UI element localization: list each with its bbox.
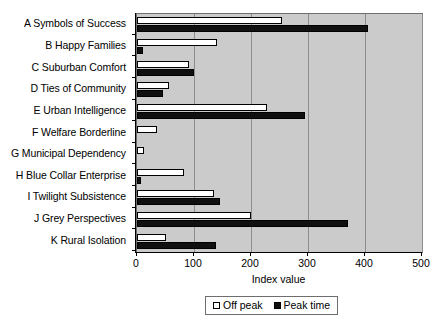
hollow-square-icon [213, 302, 220, 309]
bar-group [137, 57, 422, 79]
x-axis-tick-label: 200 [241, 257, 259, 269]
bar-off-peak [137, 147, 144, 154]
bar-group [137, 14, 422, 36]
legend-entry: Peak time [274, 299, 331, 311]
category-label: J Grey Perspectives [0, 208, 131, 230]
bar-group [137, 101, 422, 123]
bar-off-peak [137, 126, 157, 133]
x-axis-tick-label: 100 [184, 257, 202, 269]
category-label: H Blue Collar Enterprise [0, 164, 131, 186]
bar-group [137, 122, 422, 144]
bar-off-peak [137, 61, 189, 68]
bar-group [137, 79, 422, 101]
bar-peak-time [137, 47, 143, 54]
x-axis-tick-label: 300 [298, 257, 316, 269]
bar-group [137, 230, 422, 252]
bar-off-peak [137, 169, 184, 176]
x-axis-tick [364, 252, 365, 256]
bar-chart: A Symbols of SuccessB Happy FamiliesC Su… [0, 0, 432, 329]
bar-series-container [137, 14, 422, 252]
bar-group [137, 144, 422, 166]
legend-label: Off peak [223, 299, 263, 311]
bar-off-peak [137, 234, 166, 241]
category-label: K Rural Isolation [0, 229, 131, 251]
x-axis-tick [421, 252, 422, 256]
x-axis-tick [307, 252, 308, 256]
bar-peak-time [137, 25, 368, 32]
bar-peak-time [137, 242, 216, 249]
x-axis-tick-label: 400 [355, 257, 373, 269]
category-axis-labels: A Symbols of SuccessB Happy FamiliesC Su… [0, 13, 131, 251]
category-label: C Suburban Comfort [0, 56, 131, 78]
bar-peak-time [137, 69, 194, 76]
bar-peak-time [137, 177, 141, 184]
chart-legend: Off peakPeak time [205, 296, 338, 315]
bar-peak-time [137, 198, 220, 205]
category-label: B Happy Families [0, 35, 131, 57]
bar-peak-time [137, 112, 305, 119]
bar-group [137, 165, 422, 187]
x-axis-line [135, 252, 422, 253]
category-label: I Twilight Subsistence [0, 186, 131, 208]
x-axis-tick-label: 0 [133, 257, 139, 269]
bar-group [137, 209, 422, 231]
legend-label: Peak time [284, 299, 331, 311]
category-label: G Municipal Dependency [0, 143, 131, 165]
filled-square-icon [274, 302, 281, 309]
bar-off-peak [137, 190, 214, 197]
bar-group [137, 36, 422, 58]
bar-off-peak [137, 17, 282, 24]
category-label: A Symbols of Success [0, 13, 131, 35]
x-axis-title: Index value [136, 273, 421, 285]
plot-area [136, 13, 423, 253]
bar-off-peak [137, 82, 169, 89]
gridline [422, 14, 423, 252]
bar-peak-time [137, 220, 348, 227]
bar-peak-time [137, 90, 163, 97]
bar-group [137, 187, 422, 209]
bar-off-peak [137, 39, 217, 46]
category-label: D Ties of Community [0, 78, 131, 100]
x-axis-tick-label: 500 [412, 257, 430, 269]
x-axis-tick [250, 252, 251, 256]
x-axis-tick [136, 252, 137, 256]
category-label: F Welfare Borderline [0, 121, 131, 143]
legend-entry: Off peak [213, 299, 263, 311]
category-label: E Urban Intelligence [0, 100, 131, 122]
x-axis-tick [193, 252, 194, 256]
bar-off-peak [137, 212, 251, 219]
bar-off-peak [137, 104, 267, 111]
